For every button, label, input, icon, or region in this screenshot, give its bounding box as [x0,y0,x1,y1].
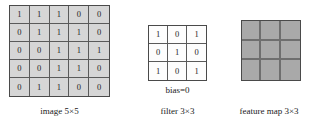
image-matrix: 1 1 1 0 0 0 1 1 1 0 0 0 1 1 1 0 0 1 1 0 … [9,5,110,97]
filter-matrix: 1 0 1 0 1 0 1 0 1 [148,25,207,81]
image-matrix-cell: 0 [30,60,50,78]
filter-matrix-cell: 0 [168,62,187,80]
image-matrix-cell: 0 [89,6,109,24]
filter-matrix-cell: 0 [149,44,168,62]
image-matrix-cell: 1 [30,24,50,42]
image-matrix-cell: 0 [30,42,50,60]
filter-matrix-cell: 1 [149,62,168,80]
image-matrix-cell: 1 [50,6,70,24]
filter-matrix-cell: 1 [149,26,168,44]
feature-map-cell [261,41,280,61]
feature-map-cell [242,41,261,61]
image-matrix-cell: 1 [69,60,89,78]
image-matrix-cell: 1 [30,78,50,96]
image-matrix-cell: 1 [50,78,70,96]
image-matrix-caption: image 5×5 [0,107,119,116]
image-matrix-cell: 0 [10,24,30,42]
filter-matrix-cell: 0 [168,26,187,44]
image-matrix-cell: 1 [69,24,89,42]
image-matrix-cell: 0 [10,60,30,78]
filter-matrix-cell: 1 [187,62,206,80]
image-matrix-cell: 1 [10,6,30,24]
image-matrix-cell: 1 [50,42,70,60]
filter-matrix-cell: 0 [187,44,206,62]
feature-map-cell [281,21,300,41]
feature-map-cell [261,60,280,80]
filter-matrix-cell: 1 [168,44,187,62]
image-matrix-cell: 1 [50,60,70,78]
bias-label: bias=0 [148,86,207,95]
image-matrix-cell: 0 [89,60,109,78]
image-matrix-cell: 0 [69,78,89,96]
image-matrix-cell: 0 [10,42,30,60]
feature-map-cell [281,60,300,80]
image-matrix-cell: 1 [30,6,50,24]
image-matrix-cell: 0 [10,78,30,96]
feature-map [241,20,301,81]
image-matrix-cell: 0 [69,6,89,24]
feature-map-cell [242,21,261,41]
feature-map-caption: feature map 3×3 [226,107,312,116]
image-matrix-cell: 1 [89,42,109,60]
image-matrix-cell: 1 [50,24,70,42]
image-matrix-cell: 0 [89,24,109,42]
feature-map-cell [261,21,280,41]
filter-matrix-caption: filter 3×3 [148,107,207,116]
filter-matrix-cell: 1 [187,26,206,44]
image-matrix-cell: 0 [89,78,109,96]
image-matrix-cell: 1 [69,42,89,60]
feature-map-cell [281,41,300,61]
feature-map-cell [242,60,261,80]
